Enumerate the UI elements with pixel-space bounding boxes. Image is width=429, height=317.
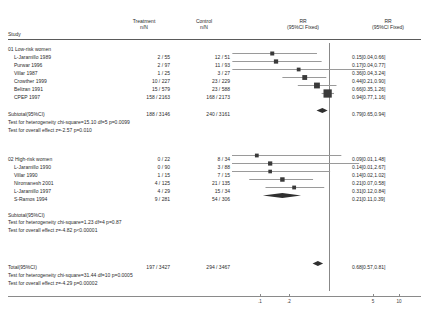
total-row-control: 294 / 3467 <box>178 264 230 270</box>
table-row-label: CPEP 1997 <box>14 94 40 100</box>
table-row-treatment: 0 / 90 <box>118 164 170 170</box>
axis-tick-label: .2 <box>282 299 296 305</box>
study-effect-marker <box>232 52 317 56</box>
table-row-treatment: 15 / 579 <box>118 86 170 92</box>
study-effect-marker <box>282 75 326 80</box>
point-estimate-square <box>274 59 278 63</box>
table-row-control: 3 / 27 <box>178 70 230 76</box>
column-header-control-line2: n/N <box>178 24 230 30</box>
table-row-control: 23 / 229 <box>178 78 230 84</box>
heterogeneity-test-low-risk: Test for heterogeneity chi-square=15.10 … <box>8 119 130 125</box>
heterogeneity-test-total: Test for heterogeneity chi-square=31.44 … <box>8 272 133 278</box>
column-header-rr-plot-line2: (95%CI Fixed) <box>258 24 348 30</box>
table-row-treatment: 2 / 55 <box>118 54 170 60</box>
table-row-label: L-Jaramillo 1990 <box>14 164 51 170</box>
overall-effect-test-high-risk: Test for overall effect z=-4.82 p<0.0000… <box>8 227 97 233</box>
point-estimate-square <box>292 186 296 190</box>
column-header-treatment: Treatment n/N <box>118 18 170 31</box>
axis-tick-label: .1 <box>253 299 267 305</box>
study-effect-marker <box>232 161 359 165</box>
heterogeneity-test-high-risk: Test for heterogeneity chi-square=1.23 d… <box>8 219 122 225</box>
study-effect-marker <box>232 68 365 72</box>
table-row-treatment: 9 / 281 <box>118 196 170 202</box>
table-row-control: 21 / 135 <box>178 180 230 186</box>
point-estimate-square <box>297 68 301 72</box>
table-row-control: 3 / 88 <box>178 164 230 170</box>
axis-tick-label: 10 <box>392 299 406 305</box>
table-row-treatment: 2 / 97 <box>118 62 170 68</box>
table-row-control: 23 / 588 <box>178 86 230 92</box>
point-estimate-square <box>268 170 272 174</box>
group-heading-low-risk: 01 Low-risk women <box>8 46 51 52</box>
table-row-label: L-Jaramillo 1997 <box>14 188 51 194</box>
diamond-shape <box>263 193 301 198</box>
axis-tick-mark <box>373 294 374 297</box>
table-row-label: Purwar 1996 <box>14 62 42 68</box>
table-row-label: Crowther 1999 <box>14 78 47 84</box>
study-effect-marker <box>232 59 321 63</box>
subtotal-row-high-risk-label: Subtotal(95%CI) <box>8 212 45 218</box>
table-row-label: S-Ramos 1994 <box>14 196 47 202</box>
study-effect-marker <box>266 186 325 190</box>
table-row-control: 168 / 2173 <box>178 94 230 100</box>
subtotal-row-low-risk-treatment: 188 / 3146 <box>118 111 170 117</box>
total-row-label: Total(95%CI) <box>8 264 37 270</box>
table-row-label: Villar 1990 <box>14 172 38 178</box>
table-row-control: 12 / 51 <box>178 54 230 60</box>
table-row-treatment: 4 / 29 <box>118 188 170 194</box>
table-row-control: 54 / 306 <box>178 196 230 202</box>
point-estimate-square <box>280 177 284 181</box>
column-header-control: Control n/N <box>178 18 230 31</box>
table-row-treatment: 0 / 22 <box>118 156 170 162</box>
table-row-control: 15 / 34 <box>178 188 230 194</box>
column-header-study: Study <box>8 31 21 37</box>
study-effect-marker <box>249 177 313 181</box>
header-rule-divider <box>8 39 421 40</box>
column-header-rr-text: RR (95%CI Fixed) <box>348 18 428 31</box>
axis-tick-label: 5 <box>366 299 380 305</box>
table-row-treatment: 4 / 125 <box>118 180 170 186</box>
axis-tick-mark <box>289 294 290 297</box>
point-estimate-square <box>270 52 274 56</box>
group-heading-high-risk: 02 High-risk women <box>8 156 52 162</box>
total-row-treatment: 197 / 3427 <box>118 264 170 270</box>
point-estimate-square <box>255 154 259 158</box>
table-row-treatment: 1 / 25 <box>118 70 170 76</box>
table-row-control: 7 / 15 <box>178 172 230 178</box>
pooled-effect-diamond <box>316 108 327 113</box>
axis-line <box>8 296 421 297</box>
table-row-label: L-Jaramillo 1989 <box>14 54 51 60</box>
pooled-effect-diamond <box>313 261 324 266</box>
diamond-shape <box>313 261 324 266</box>
study-effect-marker <box>298 83 337 89</box>
point-estimate-square <box>302 75 307 80</box>
point-estimate-square <box>323 89 331 97</box>
point-estimate-square <box>314 83 320 89</box>
subtotal-row-low-risk-label: Subtotal(95%CI) <box>8 111 45 117</box>
study-effect-marker <box>322 89 334 97</box>
point-estimate-square <box>268 161 272 165</box>
overall-effect-test-total: Test for overall effect z=-4.29 p=0.0000… <box>8 280 97 286</box>
forest-plot-graph <box>232 41 428 291</box>
axis-tick-mark <box>260 294 261 297</box>
column-header-rr-plot: RR (95%CI Fixed) <box>258 18 348 31</box>
pooled-effect-diamond <box>263 193 301 198</box>
table-row-label: Niromanesh 2001 <box>14 180 53 186</box>
diamond-shape <box>316 108 327 113</box>
table-row-treatment: 10 / 227 <box>118 78 170 84</box>
table-row-control: 11 / 93 <box>178 62 230 68</box>
column-header-treatment-line2: n/N <box>118 24 170 30</box>
study-effect-marker <box>232 154 341 158</box>
study-effect-marker <box>232 170 330 174</box>
subtotal-row-low-risk-control: 240 / 3161 <box>178 111 230 117</box>
table-row-treatment: 158 / 2163 <box>118 94 170 100</box>
column-header-rr-text-line2: (95%CI Fixed) <box>348 24 428 30</box>
table-row-label: Belizan 1991 <box>14 86 43 92</box>
overall-effect-test-low-risk: Test for overall effect z=-2.57 p=0.010 <box>8 127 92 133</box>
table-row-label: Villar 1987 <box>14 70 38 76</box>
table-row-control: 8 / 34 <box>178 156 230 162</box>
axis-tick-mark <box>399 294 400 297</box>
table-row-treatment: 1 / 15 <box>118 172 170 178</box>
